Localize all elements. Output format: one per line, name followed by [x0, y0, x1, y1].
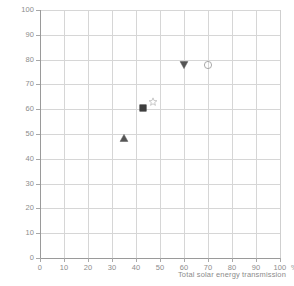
x-axis-tick — [208, 258, 209, 262]
y-axis-tick-label: 40 — [8, 155, 34, 163]
y-axis-tick-label: 70 — [8, 80, 34, 88]
x-axis-tick — [64, 258, 65, 262]
y-axis-tick-label: 80 — [8, 56, 34, 64]
gridline-vertical — [184, 10, 185, 258]
gridline-vertical — [208, 10, 209, 258]
x-axis-tick — [40, 258, 41, 262]
x-axis-tick — [88, 258, 89, 262]
gridline-vertical — [256, 10, 257, 258]
x-axis-tick — [160, 258, 161, 262]
x-axis-tick — [136, 258, 137, 262]
square-marker — [139, 104, 148, 113]
x-axis-tick — [280, 258, 281, 262]
x-axis-tick — [232, 258, 233, 262]
y-axis-tick-label: 50 — [8, 130, 34, 138]
gridline-vertical — [88, 10, 89, 258]
y-axis-tick-label: 0 — [8, 254, 34, 262]
circle-marker — [204, 60, 213, 69]
star-marker — [148, 97, 157, 106]
y-axis-tick-label: 100 — [8, 6, 34, 14]
plot-area: 0102030405060708090100010203040506070809… — [40, 10, 280, 258]
triangle-up-marker — [120, 133, 129, 142]
y-axis-tick-label: 60 — [8, 105, 34, 113]
gridline-vertical — [112, 10, 113, 258]
gridline-vertical — [64, 10, 65, 258]
y-axis-tick-label: 90 — [8, 31, 34, 39]
x-axis-title: Total solar energy transmission — [0, 270, 294, 279]
gridline-vertical — [280, 10, 281, 258]
x-axis-tick — [256, 258, 257, 262]
y-axis-tick-label: 30 — [8, 180, 34, 188]
y-axis-tick-label: 10 — [8, 229, 34, 237]
gridline-vertical — [160, 10, 161, 258]
y-axis-tick-label: 20 — [8, 204, 34, 212]
x-axis-tick — [112, 258, 113, 262]
gridline-vertical — [40, 10, 41, 258]
gridline-vertical — [136, 10, 137, 258]
x-axis-tick — [184, 258, 185, 262]
scatter-chart: 0102030405060708090100010203040506070809… — [0, 0, 294, 286]
gridline-vertical — [232, 10, 233, 258]
triangle-down-marker — [180, 60, 189, 69]
